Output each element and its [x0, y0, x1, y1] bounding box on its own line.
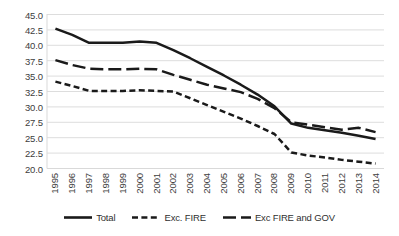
legend-label: Exc FIRE and GOV [255, 212, 335, 223]
x-axis-tick-label: 2011 [320, 173, 330, 193]
line-chart: 45.042.540.037.535.032.530.027.525.022.5… [0, 0, 399, 236]
x-axis-ticks: 1995199619971998199920002001200220032004… [0, 0, 399, 236]
legend-label: Exc. FIRE [164, 212, 205, 223]
x-axis-tick-label: 2010 [303, 173, 313, 194]
legend-label: Total [96, 212, 115, 223]
x-axis-tick-label: 1996 [67, 173, 77, 194]
x-axis-tick-label: 2012 [337, 173, 347, 194]
x-axis-tick-label: 1999 [118, 173, 128, 194]
x-axis-tick-label: 1998 [101, 173, 111, 194]
legend-item[interactable]: Exc. FIRE [132, 212, 205, 223]
x-axis-tick-label: 2003 [185, 173, 195, 194]
legend-item[interactable]: Total [64, 212, 115, 223]
legend-item[interactable]: Exc FIRE and GOV [223, 212, 335, 223]
x-axis-tick-label: 2001 [152, 173, 162, 194]
x-axis-tick-label: 2009 [286, 173, 296, 194]
x-axis-tick-label: 2002 [168, 173, 178, 194]
x-axis-tick-label: 2004 [202, 173, 212, 194]
dashed-line-swatch [132, 212, 160, 223]
x-axis-tick-label: 2006 [236, 173, 246, 194]
x-axis-tick-label: 2013 [354, 173, 364, 194]
x-axis-tick-label: 2007 [253, 173, 263, 194]
solid-line-swatch [64, 212, 92, 223]
x-axis-tick-label: 2008 [269, 173, 279, 194]
x-axis-tick-label: 2000 [135, 173, 145, 194]
x-axis-tick-label: 1995 [50, 173, 60, 194]
x-axis-tick-label: 2014 [371, 173, 381, 194]
chart-legend: TotalExc. FIREExc FIRE and GOV [0, 206, 399, 228]
x-axis-tick-label: 2005 [219, 173, 229, 194]
long-dash-line-swatch [223, 212, 251, 223]
x-axis-tick-label: 1997 [84, 173, 94, 194]
